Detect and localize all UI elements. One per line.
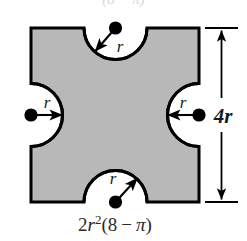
caption-minus: − [121,214,132,235]
caption-pi: π [136,214,146,235]
caption-group: 2r2(8−π) [78,212,152,236]
radius-label-left: r [44,93,51,112]
caption-close-paren: ) [146,214,152,236]
semicircle-top-annotation: r [95,21,124,56]
center-dot-left [24,108,37,121]
geometry-figure: (8 − π) r [0,0,247,241]
caption-eight: 8 [108,214,118,235]
caption-expression: 2r2(8−π) [78,212,152,236]
center-dot-bottom [109,195,122,208]
caption-coefficient: 2 [78,214,88,235]
radius-label-right: r [180,93,187,112]
dimension-label-4r: 4r [213,104,234,128]
figure-canvas: r r r r [0,0,247,241]
radius-label-top: r [117,37,124,56]
radius-label-bottom: r [110,169,117,188]
center-dot-top [109,21,122,34]
dimension-line-group: 4r [205,28,238,202]
center-dot-right [192,108,205,121]
